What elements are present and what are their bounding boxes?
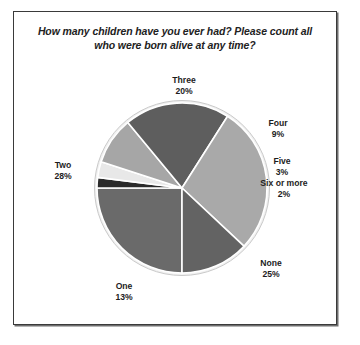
slice-label-four-name: Four	[268, 118, 287, 128]
slice-label-three-value: 20%	[158, 86, 210, 97]
slice-label-none-name: None	[260, 258, 281, 268]
slice-label-two-name: Two	[55, 160, 72, 170]
slice-label-four-value: 9%	[256, 129, 300, 140]
slice-label-five: Five 3%	[262, 156, 302, 177]
slice-label-one-name: One	[116, 281, 133, 291]
pie-plot-area: None 25%Six or more 2%Five 3%Four 9%Thre…	[0, 0, 360, 345]
pie-slices-group: None 25%Six or more 2%Five 3%Four 9%Thre…	[95, 101, 270, 276]
slice-label-none-value: 25%	[249, 269, 293, 280]
slice-label-one: One 13%	[104, 281, 144, 302]
slice-label-three-name: Three	[172, 75, 195, 85]
slice-label-three: Three 20%	[158, 75, 210, 96]
slice-label-two: Two 28%	[42, 160, 84, 181]
slice-label-six-or-more-value: 2%	[252, 189, 316, 200]
slice-label-four: Four 9%	[256, 118, 300, 139]
slice-label-one-value: 13%	[104, 292, 144, 303]
slice-label-five-value: 3%	[262, 167, 302, 178]
slice-label-six-or-more-name: Six or more	[260, 178, 307, 188]
slice-label-six-or-more: Six or more 2%	[252, 178, 316, 199]
chart-page: How many children have you ever had? Ple…	[0, 0, 360, 345]
slice-label-five-name: Five	[273, 156, 290, 166]
pie-slice-none: None 25%	[97, 188, 182, 273]
slice-label-none: None 25%	[249, 258, 293, 279]
slice-label-two-value: 28%	[42, 171, 84, 182]
